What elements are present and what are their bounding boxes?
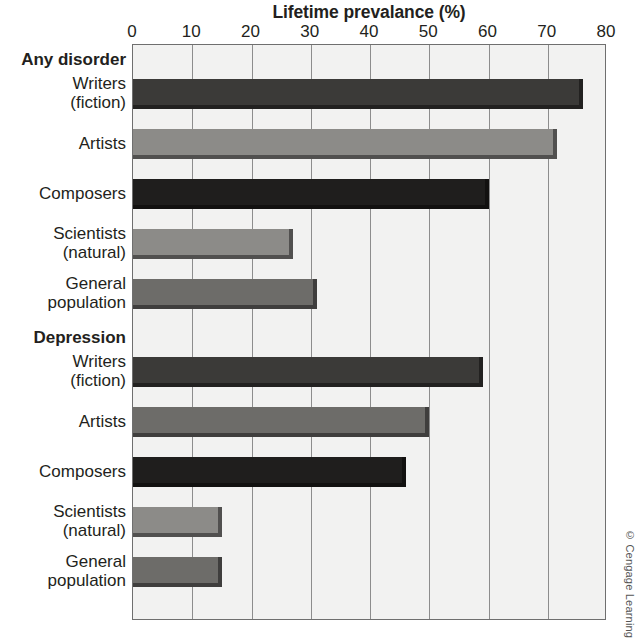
label-line: (fiction) bbox=[0, 371, 126, 390]
bar bbox=[133, 557, 222, 587]
chart-title: Lifetime prevalance (%) bbox=[132, 2, 606, 23]
label-line: (fiction) bbox=[0, 93, 126, 112]
x-tick-label-10: 10 bbox=[182, 22, 201, 42]
category-label: Generalpopulation bbox=[0, 274, 126, 312]
x-tick-label-50: 50 bbox=[419, 22, 438, 42]
bars bbox=[133, 45, 605, 619]
label-line: Writers bbox=[0, 352, 126, 371]
category-label: Writers(fiction) bbox=[0, 352, 126, 390]
x-tick-label-20: 20 bbox=[241, 22, 260, 42]
bar bbox=[133, 229, 293, 259]
x-tick-label-0: 0 bbox=[127, 22, 136, 42]
category-label: Composers bbox=[0, 184, 126, 203]
bar bbox=[133, 457, 406, 487]
label-line: Depression bbox=[0, 328, 126, 347]
label-line: Artists bbox=[0, 134, 126, 153]
label-line: Composers bbox=[0, 462, 126, 481]
bar bbox=[133, 79, 583, 109]
bar bbox=[133, 179, 489, 209]
group-label: Any disorder bbox=[0, 50, 126, 69]
label-line: population bbox=[0, 571, 126, 590]
category-label: Artists bbox=[0, 412, 126, 431]
label-line: Writers bbox=[0, 74, 126, 93]
category-label: Writers(fiction) bbox=[0, 74, 126, 112]
label-line: General bbox=[0, 552, 126, 571]
plot-area bbox=[132, 44, 606, 620]
category-label: Scientists(natural) bbox=[0, 224, 126, 262]
chart-figure: Lifetime prevalance (%) 0102030405060708… bbox=[0, 0, 638, 644]
category-label: Artists bbox=[0, 134, 126, 153]
x-tick-label-60: 60 bbox=[478, 22, 497, 42]
x-tick-label-80: 80 bbox=[597, 22, 616, 42]
x-axis-tick-labels: 01020304050607080 bbox=[0, 22, 638, 44]
bar bbox=[133, 357, 483, 387]
label-line: Any disorder bbox=[0, 50, 126, 69]
label-line: General bbox=[0, 274, 126, 293]
label-line: Scientists bbox=[0, 502, 126, 521]
label-line: Artists bbox=[0, 412, 126, 431]
bar bbox=[133, 129, 557, 159]
label-line: (natural) bbox=[0, 521, 126, 540]
category-label: Generalpopulation bbox=[0, 552, 126, 590]
copyright-credit: © Cengage Learning bbox=[624, 529, 636, 638]
category-label: Scientists(natural) bbox=[0, 502, 126, 540]
bar bbox=[133, 507, 222, 537]
x-tick-label-30: 30 bbox=[300, 22, 319, 42]
x-tick-label-70: 70 bbox=[537, 22, 556, 42]
category-label: Composers bbox=[0, 462, 126, 481]
group-label: Depression bbox=[0, 328, 126, 347]
category-labels: Any disorderWriters(fiction)ArtistsCompo… bbox=[0, 44, 126, 620]
bar bbox=[133, 279, 317, 309]
label-line: Composers bbox=[0, 184, 126, 203]
label-line: population bbox=[0, 293, 126, 312]
label-line: (natural) bbox=[0, 243, 126, 262]
label-line: Scientists bbox=[0, 224, 126, 243]
x-tick-label-40: 40 bbox=[360, 22, 379, 42]
bar bbox=[133, 407, 429, 437]
